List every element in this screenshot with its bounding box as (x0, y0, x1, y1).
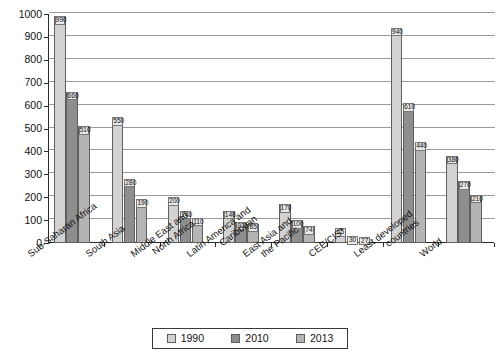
bar-value-label: 280 (124, 179, 135, 188)
bar-value-label: 660 (67, 92, 78, 101)
legend-item: 1990 (167, 333, 204, 344)
bar-value-label: 200 (168, 197, 179, 206)
bar-value-label: 170 (280, 204, 291, 213)
y-axis-tick-label: 100 (2, 215, 42, 226)
legend-item: 2010 (231, 333, 268, 344)
bar-chart: 01002003004005006007008009001000 9906605… (0, 0, 501, 355)
bar (391, 28, 403, 243)
bar-value-label: 990 (55, 16, 66, 25)
y-axis-tick-label: 400 (2, 146, 42, 157)
legend-item: 2013 (296, 333, 333, 344)
y-axis-tick-label: 700 (2, 77, 42, 88)
bar-value-label: 440 (415, 142, 426, 151)
y-axis-tick-label: 800 (2, 54, 42, 65)
y-axis-tick-label: 300 (2, 169, 42, 180)
y-axis-tick-label: 1000 (2, 9, 42, 20)
bar-value-label: 270 (459, 181, 470, 190)
bar-group: 200140110 (168, 14, 204, 243)
bar (78, 126, 90, 243)
bar (458, 181, 470, 243)
bar-group: 17010074 (279, 14, 315, 243)
legend-swatch (167, 334, 176, 343)
legend-swatch (296, 334, 305, 343)
gridline (49, 12, 495, 13)
bars-layer: 9906605105502801902001401101409385170100… (48, 14, 494, 243)
bar-group: 653027 (335, 14, 371, 243)
bar-value-label: 510 (79, 126, 90, 135)
bar-value-label: 190 (136, 199, 147, 208)
legend-swatch (231, 334, 240, 343)
bar (446, 156, 458, 243)
y-axis-tick-label: 500 (2, 123, 42, 134)
legend-label: 2013 (310, 333, 333, 344)
x-axis-tick-mark (494, 243, 495, 247)
legend-label: 2010 (245, 333, 268, 344)
y-axis-tick-label: 600 (2, 100, 42, 111)
bar-value-label: 210 (471, 195, 482, 204)
bar (54, 16, 66, 243)
y-axis-tick-label: 900 (2, 31, 42, 42)
bar-group: 380270210 (446, 14, 482, 243)
chart-legend: 199020102013 (152, 328, 348, 349)
bar-value-label: 610 (403, 103, 414, 112)
bar-value-label: 30 (347, 236, 358, 245)
bar-value-label: 940 (391, 28, 402, 37)
y-axis-tick-label: 200 (2, 192, 42, 203)
bar-value-label: 380 (447, 156, 458, 165)
bar (124, 179, 136, 243)
bar-group: 550280190 (112, 14, 148, 243)
bar-value-label: 550 (112, 117, 123, 126)
bar-value-label: 74 (304, 226, 315, 235)
legend-label: 1990 (181, 333, 204, 344)
